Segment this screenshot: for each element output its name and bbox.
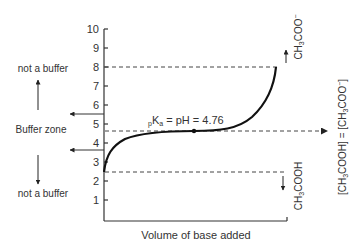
pka-label: pKa = pH = 4.76 — [148, 114, 224, 128]
y-tick-2: 2 — [93, 175, 99, 187]
y-tick-7: 7 — [93, 80, 99, 92]
y-tick-5: 5 — [93, 118, 99, 130]
y-tick-8: 8 — [93, 61, 99, 73]
y-tick-4: 4 — [93, 137, 99, 149]
buffer-zone-label: Buffer zone — [16, 124, 67, 135]
y-tick-3: 3 — [93, 156, 99, 168]
acetate-label: CH3COO− — [292, 14, 305, 59]
acetic-acid-label: CH3COOH — [293, 162, 305, 210]
y-tick-1: 1 — [93, 194, 99, 206]
not-a-buffer-bottom-label: not a buffer — [18, 188, 69, 199]
y-tick-6: 6 — [93, 99, 99, 111]
y-tick-9: 9 — [93, 42, 99, 54]
y-tick-10: 10 — [87, 23, 99, 35]
equal-concentration-label: [CH3COOH] = [CH3COO−] — [336, 79, 349, 195]
not-a-buffer-top-label: not a buffer — [18, 63, 69, 74]
titration-chart: 10 9 8 7 6 5 4 3 2 1 pKa = pH = 4.76 not… — [0, 0, 357, 251]
pka-point-marker — [192, 129, 196, 133]
x-axis-label: Volume of base added — [141, 229, 250, 241]
